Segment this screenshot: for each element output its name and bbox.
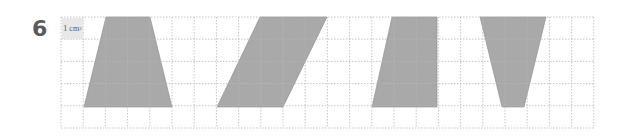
grid-figure (0, 0, 620, 137)
unit-text: 1 cm (63, 24, 79, 33)
rectangle-trapezoid-shape (372, 17, 437, 107)
unit-square-label: 1 cm2 (62, 18, 83, 39)
parallelogram-shape (217, 17, 327, 107)
unit-exponent: 2 (79, 26, 82, 31)
inverted-trapezoid-shape (480, 17, 546, 107)
